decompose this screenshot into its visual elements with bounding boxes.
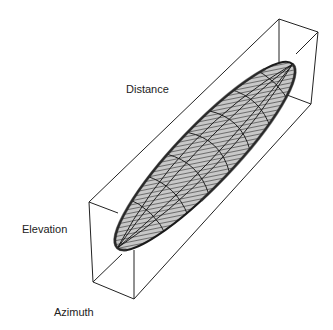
ellipsoid-diagram bbox=[0, 0, 333, 330]
distance-axis-label: Distance bbox=[126, 83, 169, 96]
ellipsoid-surface bbox=[96, 44, 313, 268]
elevation-axis-label: Elevation bbox=[22, 223, 67, 236]
azimuth-axis-label: Azimuth bbox=[54, 306, 94, 319]
